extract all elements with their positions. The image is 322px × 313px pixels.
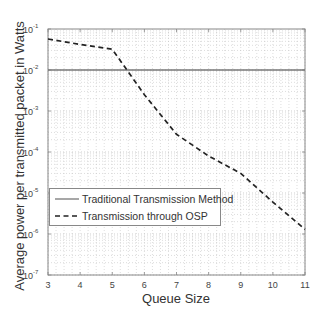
x-axis-label: Queue Size [142, 291, 210, 306]
svg-text:5: 5 [110, 280, 115, 290]
svg-text:-2: -2 [33, 64, 39, 70]
svg-text:-3: -3 [33, 105, 39, 111]
svg-text:7: 7 [174, 280, 179, 290]
legend-item-osp: Transmission through OSP [54, 208, 208, 224]
svg-text:-1: -1 [33, 23, 39, 29]
svg-text:4: 4 [78, 280, 83, 290]
svg-text:-5: -5 [33, 187, 39, 193]
svg-text:10: 10 [268, 280, 278, 290]
legend-item-traditional: Traditional Transmission Method [54, 191, 233, 207]
legend-label-osp: Transmission through OSP [82, 210, 208, 222]
grid-lines [48, 29, 305, 275]
y-axis-label: Average power per transmitted packet in … [12, 21, 27, 291]
svg-text:-4: -4 [33, 146, 39, 152]
dashed-line-icon [54, 213, 80, 219]
svg-text:-7: -7 [33, 269, 39, 275]
svg-text:11: 11 [300, 280, 309, 290]
svg-text:3: 3 [45, 280, 50, 290]
svg-text:-6: -6 [33, 228, 39, 234]
svg-text:6: 6 [142, 280, 147, 290]
legend: Traditional Transmission Method Transmis… [49, 188, 221, 226]
svg-text:9: 9 [238, 280, 243, 290]
svg-text:8: 8 [206, 280, 211, 290]
chart-plot: 3456789101110-110-210-310-410-510-610-7 [0, 0, 322, 313]
solid-line-icon [54, 196, 80, 202]
legend-label-traditional: Traditional Transmission Method [82, 193, 233, 205]
